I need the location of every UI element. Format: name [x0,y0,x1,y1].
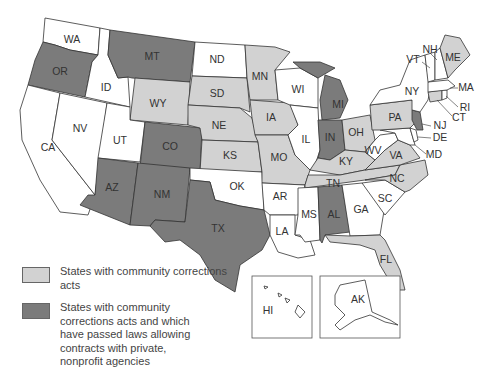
label-sc: SC [378,192,393,204]
label-tx: TX [211,222,224,234]
label-de: DE [433,131,448,143]
legend: States with community corrections acts S… [22,265,262,375]
label-ok: OK [229,180,244,192]
label-al: AL [328,208,341,220]
label-nv: NV [73,122,88,134]
label-in: IN [325,131,336,143]
label-ga: GA [353,203,368,215]
label-ak: AK [351,293,365,305]
label-mo: MO [271,151,288,163]
label-ky: KY [339,155,353,167]
label-ny: NY [405,85,420,97]
label-id: ID [101,81,112,93]
label-la: LA [276,225,289,237]
label-pa: PA [388,111,401,123]
label-wa: WA [64,33,81,45]
label-co: CO [162,140,178,152]
label-ri: RI [460,101,471,113]
label-ne: NE [212,119,227,131]
label-nd: ND [209,53,225,65]
label-fl: FL [380,253,392,265]
label-az: AZ [105,181,119,193]
legend-swatch-light [22,267,50,283]
label-nc: NC [389,172,405,184]
legend-label-light: States with community corrections acts [60,265,230,292]
label-vt: VT [406,53,420,65]
label-ia: IA [266,111,276,123]
label-mn: MN [252,70,268,82]
label-md: MD [426,148,443,160]
label-ut: UT [113,134,128,146]
label-ca: CA [41,141,56,153]
label-mt: MT [144,50,160,62]
label-tn: TN [326,177,340,189]
state-ri [442,90,447,100]
label-hi: HI [263,304,274,316]
label-mi: MI [332,98,344,110]
label-wy: WY [150,97,167,109]
state-nj [412,110,423,130]
label-il: IL [302,133,311,145]
label-ks: KS [223,149,237,161]
legend-label-dark: States with community corrections acts a… [60,301,195,369]
label-oh: OH [348,126,364,138]
label-ma: MA [458,81,474,93]
label-nj: NJ [434,119,447,131]
label-wv: WV [365,144,382,156]
label-nm: NM [154,188,170,200]
state-ma [428,80,455,92]
label-or: OR [52,65,68,77]
label-wi: WI [292,83,305,95]
label-ar: AR [273,190,288,202]
legend-swatch-dark [22,303,50,319]
label-nh: NH [422,43,437,55]
label-me: ME [445,51,461,63]
label-sd: SD [210,87,225,99]
label-va: VA [389,149,402,161]
label-ms: MS [301,208,317,220]
